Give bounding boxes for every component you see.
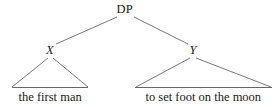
tree-node-y: Y bbox=[190, 44, 197, 57]
triangle-x-right-side bbox=[53, 58, 88, 87]
syntax-tree-figure: DP X Y the first man to set foot on the … bbox=[0, 0, 277, 107]
terminal-phrase-the-first-man: the first man bbox=[19, 91, 82, 104]
branch-root-to-x bbox=[56, 17, 117, 44]
tree-node-x: X bbox=[46, 44, 54, 57]
tree-node-root-dp: DP bbox=[117, 3, 134, 16]
triangle-x-left-side bbox=[12, 58, 48, 87]
triangle-y-right-side bbox=[196, 58, 271, 87]
branch-root-to-y bbox=[134, 17, 188, 44]
triangle-y-left-side bbox=[136, 58, 190, 87]
terminal-phrase-to-set-foot-on-the-moon: to set foot on the moon bbox=[146, 91, 262, 104]
